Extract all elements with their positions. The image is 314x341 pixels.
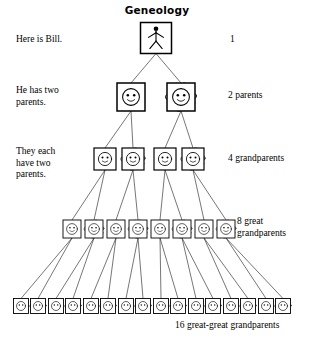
connector-line	[116, 170, 133, 220]
eye-left-icon	[201, 227, 203, 229]
person-node-female[interactable]	[216, 220, 236, 238]
eye-left-icon	[19, 304, 20, 305]
person-box[interactable]	[122, 148, 144, 170]
person-node-male[interactable]	[14, 299, 29, 314]
person-box[interactable]	[154, 148, 176, 170]
person-node-male[interactable]	[49, 299, 64, 314]
person-node-female[interactable]	[84, 220, 104, 238]
connector-line	[193, 170, 226, 220]
connector-line	[165, 170, 182, 220]
connector-line	[38, 238, 72, 299]
eye-left-icon	[36, 304, 37, 305]
person-box[interactable]	[117, 83, 145, 111]
eye-right-icon	[214, 304, 215, 305]
person-box[interactable]	[66, 299, 81, 314]
person-node-female[interactable]	[65, 298, 82, 313]
person-node-male[interactable]	[189, 299, 204, 314]
person-box[interactable]	[224, 299, 239, 314]
eye-right-icon	[183, 94, 186, 97]
eye-right-icon	[284, 304, 285, 305]
person-node-female[interactable]	[121, 148, 145, 170]
person-node-male[interactable]	[195, 220, 213, 238]
eye-right-icon	[183, 227, 185, 229]
person-node-male[interactable]	[107, 220, 125, 238]
person-box[interactable]	[171, 299, 186, 314]
eye-right-icon	[109, 304, 110, 305]
eye-left-icon	[135, 227, 137, 229]
person-box[interactable]	[182, 148, 204, 170]
person-box[interactable]	[195, 220, 213, 238]
eye-right-icon	[95, 227, 97, 229]
eye-left-icon	[246, 304, 247, 305]
person-box[interactable]	[94, 148, 116, 170]
person-box[interactable]	[173, 220, 191, 238]
eye-right-icon	[133, 94, 136, 97]
person-box[interactable]	[63, 220, 81, 238]
person-node-male[interactable]	[94, 148, 116, 170]
person-node-female[interactable]	[165, 83, 196, 111]
person-box[interactable]	[276, 299, 291, 314]
person-node-female[interactable]	[181, 148, 205, 170]
person-box[interactable]	[206, 299, 221, 314]
person-node-person[interactable]	[141, 23, 172, 54]
person-box[interactable]	[14, 299, 29, 314]
eye-left-icon	[113, 227, 115, 229]
eye-right-icon	[249, 304, 250, 305]
person-box[interactable]	[154, 299, 169, 314]
person-node-male[interactable]	[84, 299, 99, 314]
person-box[interactable]	[189, 299, 204, 314]
person-box[interactable]	[259, 299, 274, 314]
eye-right-icon	[74, 304, 75, 305]
person-node-male[interactable]	[154, 148, 176, 170]
eye-left-icon	[159, 304, 160, 305]
eye-left-icon	[194, 304, 195, 305]
person-box[interactable]	[107, 220, 125, 238]
person-box[interactable]	[31, 299, 46, 314]
connector-line	[21, 238, 72, 299]
eye-right-icon	[195, 157, 197, 159]
connector-line	[156, 54, 181, 84]
connector-line	[56, 238, 94, 299]
person-box[interactable]	[49, 299, 64, 314]
eye-left-icon	[69, 227, 71, 229]
person-node-female[interactable]	[205, 298, 222, 313]
eye-left-icon	[130, 157, 132, 159]
person-box[interactable]	[119, 299, 134, 314]
connector-line	[160, 238, 178, 299]
person-node-female[interactable]	[240, 298, 257, 313]
person-box[interactable]	[151, 220, 169, 238]
person-box[interactable]	[167, 83, 195, 111]
person-box[interactable]	[136, 299, 151, 314]
eye-right-icon	[107, 157, 109, 159]
person-node-female[interactable]	[275, 298, 292, 313]
person-node-female[interactable]	[172, 220, 192, 238]
person-node-male[interactable]	[119, 299, 134, 314]
person-node-male[interactable]	[224, 299, 239, 314]
person-box[interactable]	[85, 220, 103, 238]
person-node-female[interactable]	[170, 298, 187, 313]
person-node-male[interactable]	[259, 299, 274, 314]
person-node-male[interactable]	[154, 299, 169, 314]
person-box[interactable]	[241, 299, 256, 314]
person-box[interactable]	[84, 299, 99, 314]
person-node-female[interactable]	[128, 220, 148, 238]
eye-left-icon	[106, 304, 107, 305]
person-node-female[interactable]	[100, 298, 117, 313]
person-node-female[interactable]	[30, 298, 47, 313]
person-box[interactable]	[101, 299, 116, 314]
connector-line	[160, 238, 161, 299]
eye-left-icon	[102, 157, 104, 159]
connector-line	[181, 111, 193, 148]
person-node-male[interactable]	[151, 220, 169, 238]
person-node-female[interactable]	[135, 298, 152, 313]
eye-right-icon	[73, 227, 75, 229]
person-box[interactable]	[217, 220, 235, 238]
genealogy-diagram: Geneology Here is Bill. He has two paren…	[0, 0, 314, 341]
connector-line	[226, 238, 283, 299]
person-box[interactable]	[129, 220, 147, 238]
connector-line	[73, 238, 94, 299]
eye-left-icon	[264, 304, 265, 305]
eye-right-icon	[57, 304, 58, 305]
person-node-male[interactable]	[63, 220, 81, 238]
person-node-male[interactable]	[117, 83, 145, 111]
